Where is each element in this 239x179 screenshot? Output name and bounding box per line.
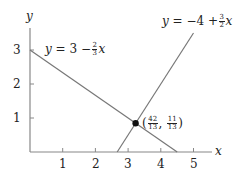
equation-label-line1: y = 3 −23x [45,42,105,57]
x-tick-label: 5 [190,158,198,170]
y-tick-label: 1 [13,112,21,124]
y-tick-label: 3 [13,44,21,56]
y-axis-label: y [26,10,33,22]
y-tick-label: 2 [13,78,21,90]
intersection-point [132,120,138,126]
x-tick-label: 4 [157,158,165,170]
x-tick-label: 1 [59,158,67,170]
x-axis-label: x [215,145,222,157]
line-y-3-minus-two-thirds-x [30,50,177,152]
x-tick-label: 2 [92,158,100,170]
equation-label-line2: y = −4 +32x [162,14,232,29]
intersection-label: (4213, 1113) [142,116,183,131]
line-y-neg4-plus-three-halves-x [117,33,193,152]
x-tick-label: 3 [124,158,132,170]
